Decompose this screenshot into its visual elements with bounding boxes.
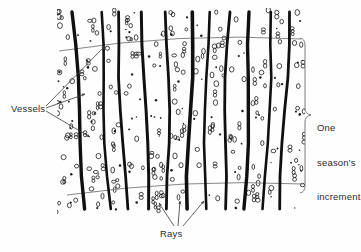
vessel-dot bbox=[70, 173, 72, 175]
vessel-dot bbox=[297, 62, 299, 64]
vessel-ellipse-pair bbox=[301, 64, 305, 68]
vessel-dot bbox=[125, 29, 127, 31]
vessel-dot bbox=[128, 31, 130, 33]
vessel-dot bbox=[161, 34, 163, 36]
vessel-dot bbox=[154, 116, 156, 118]
vessel-ellipse bbox=[233, 137, 237, 143]
vessel-ellipse bbox=[175, 67, 179, 71]
vessel-dot bbox=[298, 164, 299, 165]
vessel-dot bbox=[243, 52, 245, 54]
vessel-ellipse bbox=[57, 23, 62, 29]
vessel-ellipse bbox=[258, 174, 261, 179]
vessel-ellipse bbox=[74, 198, 78, 202]
vessel-dot bbox=[208, 194, 210, 196]
vessel-ellipse bbox=[154, 42, 158, 47]
vessel-ellipse bbox=[214, 81, 219, 87]
vessel-ellipse bbox=[134, 35, 138, 41]
vessel-ellipse bbox=[252, 67, 255, 73]
vessel-dot bbox=[77, 34, 79, 36]
vessel-dot bbox=[90, 40, 92, 42]
vessel-ellipse bbox=[100, 135, 103, 140]
vessel-dot bbox=[139, 98, 141, 100]
season-increment-label: One season's increment bbox=[317, 99, 361, 226]
vessel-dot bbox=[136, 116, 137, 117]
vessel-dot bbox=[178, 139, 180, 141]
vessel-dot bbox=[259, 76, 262, 79]
vessel-ellipse-pair bbox=[139, 196, 143, 200]
vessel-ellipse bbox=[96, 153, 101, 158]
vessel-ellipse bbox=[234, 17, 238, 22]
season-label-line-1: One bbox=[317, 122, 361, 134]
vessel-ellipse-pair bbox=[173, 84, 176, 88]
vessel-dot bbox=[160, 117, 162, 119]
vessel-dot bbox=[183, 123, 184, 124]
vessel-dot bbox=[114, 130, 116, 132]
vessel-ellipse-pair bbox=[275, 14, 279, 18]
vessel-dot bbox=[300, 170, 302, 172]
vessel-dot bbox=[135, 201, 138, 204]
vessel-dot bbox=[170, 33, 173, 36]
vessel-ellipse bbox=[261, 117, 264, 121]
vessel-dot bbox=[241, 143, 243, 145]
vessel-dot bbox=[274, 77, 276, 79]
vessel-ellipse bbox=[58, 201, 61, 205]
vessel-ellipse bbox=[89, 187, 94, 191]
vessel-ellipse bbox=[169, 26, 173, 31]
vessel-ellipse bbox=[277, 83, 280, 87]
vessel-dot bbox=[295, 111, 297, 113]
vessel-ellipse-pair bbox=[173, 88, 176, 92]
ray-line bbox=[280, 12, 290, 209]
vessel-ellipse bbox=[213, 100, 217, 106]
vessel-ellipse bbox=[172, 54, 177, 57]
vessel-ellipse bbox=[179, 163, 183, 168]
vessel-dot bbox=[70, 202, 72, 204]
vessel-ellipse-pair bbox=[112, 8, 116, 12]
vessel-ellipse bbox=[129, 24, 133, 28]
vessel-dot bbox=[175, 139, 176, 140]
vessel-dot bbox=[148, 55, 151, 58]
vessel-dot bbox=[131, 118, 133, 120]
ray-line bbox=[225, 12, 230, 209]
vessel-ellipse bbox=[128, 84, 132, 88]
vessel-ellipse bbox=[107, 25, 111, 30]
vessel-ellipse bbox=[112, 180, 116, 183]
wood-anatomy-illustration bbox=[0, 0, 361, 252]
vessel-ellipse-pair bbox=[208, 130, 211, 134]
vessel-ellipse bbox=[95, 31, 99, 35]
vessel-ellipse-pair bbox=[180, 129, 183, 134]
vessel-ellipse-pair bbox=[253, 81, 256, 85]
vessel-dot bbox=[125, 36, 127, 38]
vessel-dot bbox=[299, 149, 301, 151]
vessel-ellipse-pair bbox=[255, 100, 258, 104]
rays-label: Rays bbox=[160, 228, 182, 239]
vessel-dot bbox=[131, 73, 133, 75]
vessel-ellipse-pair bbox=[302, 136, 306, 140]
vessel-ellipse-pair bbox=[276, 32, 280, 35]
vessel-dot bbox=[128, 128, 130, 130]
vessel-ellipse bbox=[177, 194, 180, 200]
vessel-ellipse bbox=[185, 28, 188, 31]
vessel-ellipse bbox=[252, 164, 255, 169]
vessel-ellipse bbox=[67, 203, 71, 208]
vessel-ellipse-pair bbox=[252, 194, 255, 198]
vessel-ellipse-pair bbox=[292, 166, 295, 170]
season-label-line-2: season's bbox=[317, 157, 361, 169]
vessel-ellipse bbox=[215, 10, 218, 14]
vessel-ellipse bbox=[114, 91, 118, 95]
vessel-ellipse-pair bbox=[182, 128, 185, 132]
vessel-ellipse bbox=[256, 111, 259, 115]
vessel-ellipse bbox=[196, 56, 200, 62]
vessel-ellipse-pair bbox=[263, 64, 266, 68]
vessel-ellipse bbox=[238, 166, 241, 169]
vessel-ellipse bbox=[174, 62, 177, 68]
vessel-ellipse bbox=[66, 35, 69, 40]
vessel-ellipse bbox=[181, 70, 185, 74]
vessel-dot bbox=[96, 207, 98, 209]
vessel-dot bbox=[299, 20, 301, 22]
vessel-dot bbox=[134, 12, 136, 14]
vessel-ellipse bbox=[107, 59, 111, 62]
vessel-dot bbox=[193, 118, 195, 120]
vessel-ellipse bbox=[210, 72, 214, 78]
vessel-dot bbox=[119, 164, 122, 167]
vessel-ellipse bbox=[55, 210, 58, 214]
